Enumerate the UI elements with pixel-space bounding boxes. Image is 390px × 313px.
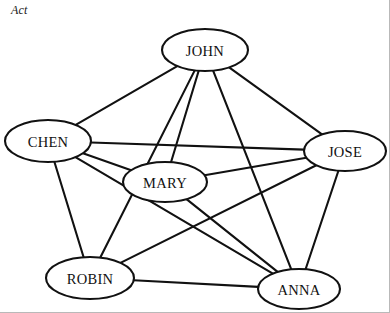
graph-node-john[interactable]: JOHN <box>162 29 248 71</box>
graph-node-robin[interactable]: ROBIN <box>46 257 134 299</box>
node-label-chen: CHEN <box>28 134 69 150</box>
node-label-mary: MARY <box>143 175 187 191</box>
node-label-anna: ANNA <box>277 282 320 298</box>
graph-node-jose[interactable]: JOSE <box>304 131 386 171</box>
graph-node-mary[interactable]: MARY <box>123 162 207 202</box>
graph-edge-mary-anna <box>187 199 278 272</box>
graph-node-chen[interactable]: CHEN <box>5 120 91 162</box>
graph-edge-john-jose <box>229 67 322 134</box>
graph-edge-john-mary <box>171 71 199 162</box>
graph-edge-john-chen <box>76 66 178 125</box>
act-network-figure: Act JOHNCHENJOSEMARYROBINANNA <box>0 0 390 313</box>
graph-edge-chen-robin <box>54 162 83 257</box>
graph-edge-chen-mary <box>83 153 131 170</box>
node-label-jose: JOSE <box>328 144 362 160</box>
graph-edge-jose-mary <box>205 158 307 176</box>
node-label-john: JOHN <box>186 43 224 59</box>
social-network-graph: JOHNCHENJOSEMARYROBINANNA <box>0 0 390 313</box>
graph-node-anna[interactable]: ANNA <box>258 269 340 309</box>
graph-edge-robin-anna <box>134 280 259 287</box>
graph-nodes: JOHNCHENJOSEMARYROBINANNA <box>5 29 386 309</box>
graph-edge-jose-anna <box>306 171 339 270</box>
node-label-robin: ROBIN <box>67 271 114 287</box>
graph-edge-chen-jose <box>91 142 304 149</box>
graph-edge-john-anna <box>213 71 291 270</box>
